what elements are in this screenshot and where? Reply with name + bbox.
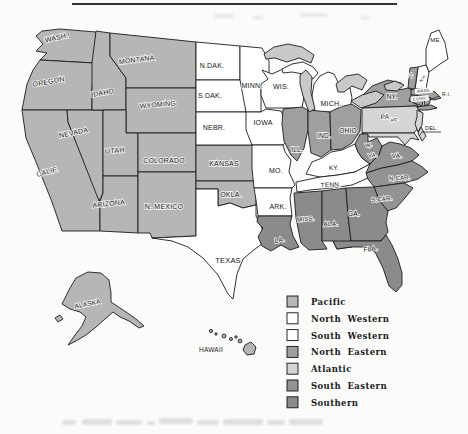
state-label-ny: NY. [387, 93, 398, 100]
legend-swatch-southern [287, 397, 298, 408]
state-label-nm: N. MEXICO [145, 203, 184, 210]
state-label-ga: GA. [348, 210, 360, 217]
state-label-tn: TENN. [320, 180, 341, 188]
state-label-ne: NEBR. [203, 124, 225, 131]
legend-swatch-north_western [287, 313, 298, 324]
state-label-ky: KY. [329, 164, 340, 172]
state-label-in: IND. [317, 132, 331, 139]
state-label-nd: N.DAK. [200, 62, 225, 69]
legend-swatch-south_western [287, 330, 298, 341]
state-label-al: ALA. [323, 220, 338, 228]
state-label-il: ILL. [291, 146, 303, 153]
state-label-wi: WIS. [273, 83, 289, 90]
state-ia [246, 109, 288, 145]
state-co [138, 133, 196, 172]
legend-swatch-north_eastern [287, 346, 298, 357]
state-label-tx: TEXAS [215, 256, 241, 265]
hawaii-island [215, 333, 217, 335]
state-label2-wv: VA. [368, 151, 378, 158]
hawaii-island [209, 329, 212, 332]
state-label-mn: MINN. [242, 82, 263, 89]
state-label-hi: HAWAII [199, 346, 223, 353]
hawaii-island [222, 334, 226, 338]
legend-label-north_eastern: North Eastern [311, 347, 387, 357]
state-label-wv: W. [365, 142, 373, 149]
state-wy [126, 88, 196, 133]
state-label-de: DEL. [425, 125, 438, 131]
legend-label-atlantic: Atlantic [310, 364, 352, 374]
state-label-ok: OKLA. [220, 191, 242, 198]
state-label-ks: KANSAS [209, 160, 239, 167]
legend-swatch-atlantic [287, 363, 298, 374]
legend-label-pacific: Pacific [311, 297, 346, 307]
state-ar [254, 188, 292, 216]
state-label-sd: S.DAK. [198, 92, 222, 99]
legend-label-south_western: South Western [311, 331, 389, 341]
state-label-ri: R.I. [442, 91, 451, 97]
state-label-oh: OHIO [339, 127, 356, 134]
hawaii-island [230, 338, 233, 341]
legend-swatch-pacific [287, 296, 298, 307]
legend-label-north_western: North Western [311, 314, 389, 324]
legend-swatch-south_eastern [287, 380, 298, 391]
hawaii-island [238, 339, 242, 343]
state-label-ar: ARK. [269, 203, 286, 210]
hawaii-island [235, 336, 237, 338]
state-label-co: COLORADO [143, 157, 185, 164]
us-regions-map: WASH.OREGONCALIF.NEVADAIDAHOMONTANAWYOMI… [0, 0, 468, 434]
scanned-map-figure: WASH.OREGONCALIF.NEVADAIDAHOMONTANAWYOMI… [0, 0, 468, 434]
legend-label-southern: Southern [311, 398, 358, 408]
state-nd [196, 42, 240, 80]
state-label-me: ME. [430, 37, 441, 43]
state-label-mi: MICH. [321, 100, 342, 107]
state-label-va: VA. [391, 152, 402, 160]
legend-label-south_eastern: South Eastern [311, 381, 387, 391]
state-label-ia: IOWA [253, 119, 272, 126]
state-label-mo: MO. [269, 167, 283, 174]
